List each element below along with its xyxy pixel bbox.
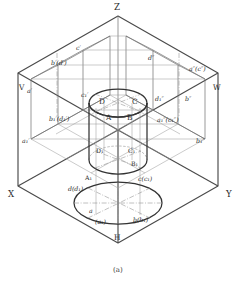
label-a: a <box>89 208 93 214</box>
point-B: B <box>127 114 132 121</box>
label-c-c1: c(c₁) <box>138 176 152 182</box>
label-c1-prime: c₁′ <box>81 92 88 98</box>
label-c-prime: c′ <box>76 45 81 51</box>
w-plane-label: W <box>213 84 221 91</box>
x-axis-label: X <box>8 190 14 199</box>
point-D: D <box>99 98 105 105</box>
point-A: A <box>106 114 111 121</box>
y-axis-label: Y <box>226 190 232 199</box>
projection-diagram: .hv{stroke:#4a4a4a;stroke-width:1.15;fil… <box>0 0 243 289</box>
label-a1-dprime-c1-dprime: a₁″(c₁″) <box>157 117 179 123</box>
point-D1: D₁ <box>96 148 103 154</box>
v-plane-label: V <box>19 84 24 91</box>
label-b-b1: b(b₁) <box>133 217 148 223</box>
z-axis-label: Z <box>114 3 120 12</box>
label-a1-prime: a₁′ <box>22 138 30 144</box>
figure-caption: (a) <box>113 266 123 274</box>
label-a1-paren: (a₁) <box>95 219 106 225</box>
label-b-dprime: b″ <box>185 96 191 102</box>
point-A1: A₁ <box>85 175 92 181</box>
label-d1-dprime: d₁″ <box>155 96 164 102</box>
label-d-d1: d(d₁) <box>68 186 83 192</box>
h-plane-label: H <box>114 234 120 241</box>
label-d-dprime: d″ <box>148 55 154 61</box>
point-C1: C₁ <box>128 148 135 154</box>
label-b1-prime-d1-prime: b₁′(d₁′) <box>49 116 70 122</box>
label-b1-dprime: b₁″ <box>196 138 205 144</box>
label-a-prime: a′ <box>27 88 32 94</box>
point-C: C <box>132 98 138 105</box>
figure-container: .hv{stroke:#4a4a4a;stroke-width:1.15;fil… <box>0 0 243 289</box>
label-b-prime-d-prime: b′(d′) <box>51 60 67 66</box>
label-a-dprime-c-dprime: a″(c″) <box>189 66 206 72</box>
point-B1: B₁ <box>131 161 138 167</box>
